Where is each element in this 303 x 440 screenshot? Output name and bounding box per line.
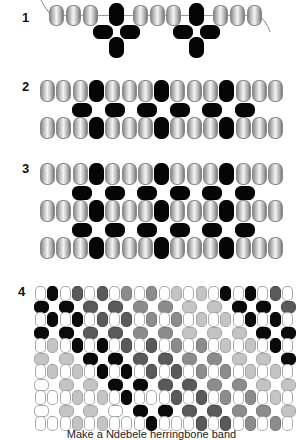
grey-bead	[252, 80, 267, 102]
black-bead	[173, 25, 193, 39]
pattern-bead	[220, 312, 231, 327]
grey-bead	[166, 5, 181, 26]
black-bead	[105, 223, 125, 237]
pattern-bead	[233, 364, 244, 379]
pattern-bead	[47, 338, 58, 353]
pattern-bead	[281, 301, 296, 313]
pattern-bead	[208, 286, 219, 301]
grey-bead	[187, 163, 202, 185]
black-bead	[202, 186, 222, 200]
black-bead	[89, 200, 104, 222]
grey-bead	[236, 200, 251, 222]
grey-bead	[66, 5, 81, 26]
pattern-bead	[72, 312, 83, 327]
black-bead	[93, 25, 113, 39]
pattern-bead	[232, 327, 247, 339]
grey-bead	[236, 163, 251, 185]
pattern-bead	[159, 364, 170, 379]
pattern-bead	[133, 379, 148, 391]
grey-bead	[56, 237, 71, 259]
black-bead	[189, 3, 204, 26]
pattern-bead	[72, 390, 83, 405]
pattern-bead	[270, 286, 281, 301]
pattern-bead	[182, 301, 197, 313]
pattern-bead	[35, 364, 46, 379]
pattern-bead	[108, 379, 123, 391]
pattern-bead	[158, 327, 173, 339]
pattern-bead	[108, 405, 123, 417]
grey-bead	[40, 200, 55, 222]
pattern-bead	[108, 301, 123, 313]
pattern-bead	[146, 390, 157, 405]
black-bead	[105, 103, 125, 117]
pattern-bead	[270, 364, 281, 379]
pattern-bead	[134, 338, 145, 353]
pattern-bead	[35, 390, 46, 405]
black-bead	[89, 237, 104, 259]
step-number-3: 3	[22, 161, 29, 176]
pattern-bead	[146, 338, 157, 353]
pattern-bead	[34, 405, 49, 417]
pattern-bead	[257, 338, 268, 353]
grey-bead	[252, 237, 267, 259]
pattern-bead	[207, 353, 222, 365]
grey-bead	[230, 5, 245, 26]
pattern-bead	[146, 286, 157, 301]
pattern-bead	[83, 327, 98, 339]
black-bead	[109, 37, 124, 58]
pattern-bead	[208, 390, 219, 405]
pattern-bead	[270, 312, 281, 327]
grey-bead	[187, 237, 202, 259]
pattern-bead	[133, 405, 148, 417]
grey-bead	[170, 117, 185, 139]
pattern-bead	[233, 286, 244, 301]
pattern-bead	[183, 338, 194, 353]
pattern-bead	[59, 379, 74, 391]
grey-bead	[40, 80, 55, 102]
pattern-bead	[34, 353, 49, 365]
pattern-bead	[84, 390, 95, 405]
pattern-bead	[158, 405, 173, 417]
pattern-bead	[196, 312, 207, 327]
pattern-bead	[60, 390, 71, 405]
grey-bead	[122, 200, 137, 222]
pattern-bead	[182, 405, 197, 417]
black-bead	[219, 117, 234, 139]
pattern-bead	[158, 301, 173, 313]
pattern-bead	[182, 327, 197, 339]
grey-bead	[73, 200, 88, 222]
pattern-bead	[134, 286, 145, 301]
pattern-bead	[84, 286, 95, 301]
grey-bead	[138, 200, 153, 222]
pattern-bead	[245, 286, 256, 301]
pattern-bead	[35, 286, 46, 301]
pattern-bead	[257, 286, 268, 301]
pattern-bead	[47, 364, 58, 379]
pattern-bead	[97, 286, 108, 301]
caption: Make a Ndebele herringbone band	[0, 428, 303, 440]
pattern-bead	[282, 286, 293, 301]
pattern-bead	[208, 364, 219, 379]
black-bead	[137, 186, 157, 200]
pattern-bead	[60, 312, 71, 327]
grey-bead	[56, 117, 71, 139]
black-bead	[120, 25, 140, 39]
pattern-bead	[196, 338, 207, 353]
grey-bead	[170, 163, 185, 185]
grey-bead	[170, 80, 185, 102]
pattern-bead	[207, 379, 222, 391]
pattern-bead	[207, 405, 222, 417]
black-bead	[72, 223, 92, 237]
pattern-bead	[171, 338, 182, 353]
pattern-bead	[208, 312, 219, 327]
black-bead	[235, 223, 255, 237]
pattern-bead	[34, 327, 49, 339]
pattern-bead	[282, 390, 293, 405]
pattern-bead	[171, 312, 182, 327]
pattern-bead	[256, 301, 271, 313]
pattern-bead	[220, 390, 231, 405]
grey-bead	[252, 163, 267, 185]
black-bead	[202, 103, 222, 117]
pattern-bead	[196, 364, 207, 379]
pattern-bead	[83, 379, 98, 391]
